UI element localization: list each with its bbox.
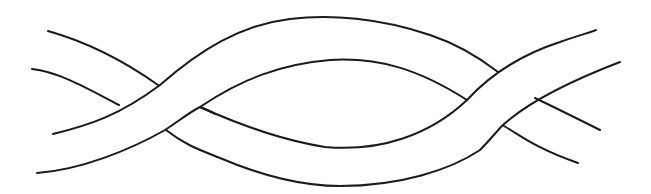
band-a-edge-inner-arc <box>200 60 467 107</box>
band-b-edge-lower-right <box>503 62 620 125</box>
right-crossing <box>467 30 620 163</box>
band-a-edge-lower-left <box>32 69 119 105</box>
band-a <box>32 17 498 107</box>
band-b <box>37 85 503 186</box>
left-crossing <box>200 107 215 114</box>
band-a-edge-lower-right-tail <box>504 126 578 163</box>
band-b-edge-inner-bottom-arc <box>200 100 467 148</box>
band-b-edge-upper-right <box>467 30 596 100</box>
intertwined-bands-drawing <box>0 0 651 194</box>
band-a-edge-upper-right-tail <box>535 98 600 130</box>
band-a-edge-top-arc <box>160 17 498 85</box>
band-b-edge-outer-bottom-arc <box>166 125 503 186</box>
braid-illustration <box>0 0 651 194</box>
band-b-edge-lower <box>37 107 200 173</box>
band-a-under-segment-1 <box>200 107 215 114</box>
band-b-edge-upper <box>53 85 160 134</box>
